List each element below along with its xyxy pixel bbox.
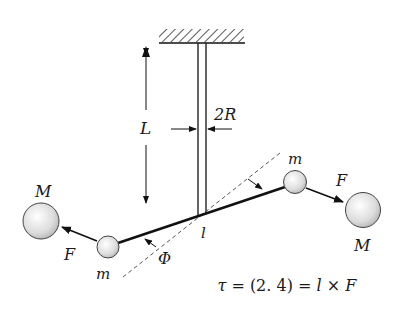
large-mass-right xyxy=(346,193,381,228)
large-mass-left xyxy=(23,203,59,239)
ceiling-support xyxy=(159,29,245,43)
length-label: L xyxy=(139,118,151,138)
large-mass-right-label: M xyxy=(353,236,371,255)
equation-middle: = (2. 4) = xyxy=(226,276,316,295)
force-arrow-left xyxy=(62,227,97,241)
equation-times: × xyxy=(322,276,346,295)
equation-F: F xyxy=(344,276,357,295)
small-mass-right-label: m xyxy=(288,150,302,168)
large-mass-left-label: M xyxy=(34,182,52,201)
torsion-fiber xyxy=(198,43,206,216)
fiber-diameter-label: 2R xyxy=(213,105,236,124)
torque-equation: τ = (2. 4) = l × F xyxy=(192,276,372,295)
force-left-label: F xyxy=(63,245,76,264)
force-right-label: F xyxy=(335,171,348,190)
angle-label: Φ xyxy=(158,249,171,268)
small-mass-left xyxy=(97,236,119,258)
balance-rod xyxy=(112,186,288,245)
force-arrow-right xyxy=(306,188,343,202)
torsion-balance-diagram: L 2R Φ l m m M M F F τ = (2. 4) = l × F xyxy=(0,0,408,320)
small-mass-left-label: m xyxy=(96,265,110,283)
small-mass-right xyxy=(284,171,307,194)
lever-arm-label: l xyxy=(201,224,206,242)
